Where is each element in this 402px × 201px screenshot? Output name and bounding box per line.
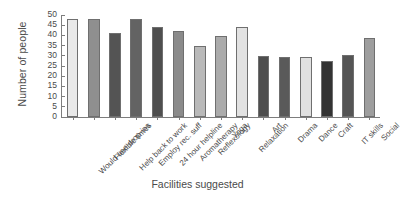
x-tick-mark xyxy=(73,117,74,120)
y-tick-mark xyxy=(62,35,65,36)
y-tick-mark xyxy=(62,117,65,118)
bar xyxy=(258,56,270,117)
bar xyxy=(173,31,185,117)
y-tick-mark xyxy=(62,25,65,26)
x-tick-mark xyxy=(136,117,137,120)
x-tick-mark xyxy=(115,117,116,120)
bar xyxy=(194,46,206,117)
x-tick-label: Craft xyxy=(336,121,355,140)
y-tick-label: 35 xyxy=(48,40,57,51)
y-tick-label: 40 xyxy=(48,29,57,40)
bar xyxy=(88,19,100,117)
y-tick-mark xyxy=(62,66,65,67)
bar xyxy=(109,33,121,117)
x-tick-label: Social xyxy=(380,121,402,143)
x-tick-mark xyxy=(327,117,328,120)
y-axis-title-text: Number of people xyxy=(16,21,28,106)
x-tick-mark xyxy=(306,117,307,120)
x-tick-mark xyxy=(369,117,370,120)
bar xyxy=(279,57,291,117)
x-tick-mark xyxy=(348,117,349,120)
x-tick-mark xyxy=(157,117,158,120)
y-tick-label: 5 xyxy=(52,101,57,112)
y-tick-label: 25 xyxy=(48,60,57,71)
x-tick-mark xyxy=(94,117,95,120)
x-tick-mark xyxy=(179,117,180,120)
y-tick-mark xyxy=(62,55,65,56)
bar xyxy=(236,27,248,117)
x-tick-mark xyxy=(221,117,222,120)
bar xyxy=(300,57,312,117)
y-tick-mark xyxy=(62,45,65,46)
y-tick-mark xyxy=(62,96,65,97)
y-tick-label: 15 xyxy=(48,80,57,91)
bar xyxy=(342,55,354,117)
plot-area: 05101520253035404550 xyxy=(62,15,380,117)
y-tick-label: 20 xyxy=(48,70,57,81)
y-tick-mark xyxy=(62,106,65,107)
bar xyxy=(364,38,376,117)
y-tick-label: 50 xyxy=(48,9,57,20)
bar xyxy=(152,27,164,117)
y-tick-label: 45 xyxy=(48,19,57,30)
y-tick-label: 30 xyxy=(48,50,57,61)
x-axis-title-text: Facilities suggested xyxy=(151,178,243,190)
x-tick-mark xyxy=(285,117,286,120)
x-tick-mark xyxy=(242,117,243,120)
y-tick-mark xyxy=(62,86,65,87)
x-tick-mark xyxy=(263,117,264,120)
bar xyxy=(67,19,79,117)
x-tick-label: Drama xyxy=(296,121,319,144)
x-axis-title: Facilities suggested xyxy=(0,178,395,190)
bar xyxy=(321,61,333,117)
y-tick-label: 10 xyxy=(48,91,57,102)
y-tick-label: 0 xyxy=(52,111,57,122)
y-axis-title: Number of people xyxy=(14,14,30,114)
y-axis-line xyxy=(61,15,62,118)
bar xyxy=(130,19,142,117)
y-tick-mark xyxy=(62,15,65,16)
bar xyxy=(215,36,227,117)
y-tick-mark xyxy=(62,76,65,77)
x-tick-mark xyxy=(200,117,201,120)
